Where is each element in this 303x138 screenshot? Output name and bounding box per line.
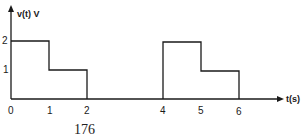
x-axis-arrow-icon <box>277 96 284 102</box>
page-number: 176 <box>74 122 95 138</box>
x-tick-0: 0 <box>8 106 14 116</box>
x-tick-5: 5 <box>198 106 204 116</box>
x-tick-4: 4 <box>160 106 166 116</box>
step-waveform-chart <box>0 0 303 138</box>
pulse-1 <box>11 41 87 99</box>
x-tick-2: 2 <box>84 106 90 116</box>
x-tick-6: 6 <box>236 107 242 117</box>
y-axis-arrow-icon <box>8 5 14 12</box>
pulse-2 <box>163 42 239 99</box>
x-axis-label: t(s) <box>286 94 300 104</box>
y-tick-2: 2 <box>2 36 8 46</box>
y-tick-1: 1 <box>3 65 9 75</box>
y-axis-label: v(t) V <box>17 9 40 19</box>
x-tick-1: 1 <box>47 106 53 116</box>
